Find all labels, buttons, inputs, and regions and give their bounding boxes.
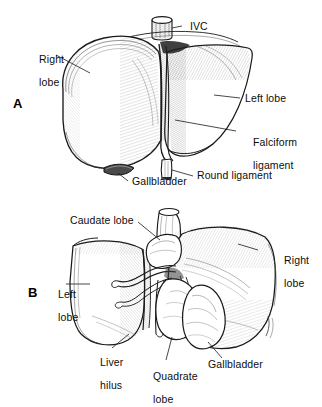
- label-right-lobe-a-line2: lobe: [39, 76, 59, 88]
- leader-ivc: [172, 26, 182, 28]
- label-round-ligament: Round ligament: [197, 170, 272, 182]
- label-quadrate-lobe-line1: Quadrate: [153, 370, 198, 382]
- label-gallbladder-a: Gallbladder: [132, 176, 187, 188]
- caudate-lobe-shape-b: [146, 234, 181, 268]
- label-gallbladder-b: Gallbladder: [208, 359, 263, 371]
- label-right-lobe-b: Right lobe: [272, 243, 309, 301]
- label-right-lobe-a: Right lobe: [27, 42, 64, 100]
- panel-b-drawing: [66, 208, 286, 360]
- right-lobe-shape-a: [58, 36, 165, 168]
- leader-quadrate-lobe: [166, 337, 172, 360]
- label-right-lobe-b-line2: lobe: [284, 277, 304, 289]
- panel-a-drawing: [56, 17, 260, 181]
- label-left-lobe-a: Left lobe: [245, 93, 286, 105]
- label-left-lobe-b: Left lobe: [46, 277, 78, 335]
- label-ivc: IVC: [190, 21, 208, 33]
- label-right-lobe-b-line1: Right: [284, 254, 309, 266]
- panel-letter-b: B: [28, 285, 37, 300]
- label-liver-hilus: Liver hilus: [88, 345, 123, 403]
- label-quadrate-lobe: Quadrate lobe: [141, 359, 198, 407]
- label-liver-hilus-line1: Liver: [100, 356, 123, 368]
- label-left-lobe-b-line2: lobe: [58, 311, 78, 323]
- panel-letter-a: A: [13, 96, 22, 111]
- label-quadrate-lobe-line2: lobe: [153, 393, 173, 405]
- label-left-lobe-b-line1: Left: [58, 288, 76, 300]
- label-caudate-lobe: Caudate lobe: [70, 215, 134, 227]
- label-falciform-line1: Falciform: [253, 136, 297, 148]
- label-right-lobe-a-line1: Right: [39, 53, 64, 65]
- label-liver-hilus-line2: hilus: [100, 379, 122, 391]
